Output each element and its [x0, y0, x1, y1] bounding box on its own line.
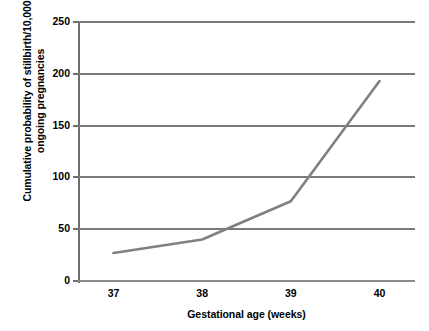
y-tick-label-150: 150 — [26, 120, 70, 131]
chart-figure: Cumulative probability of stillbirth/10,… — [0, 0, 429, 331]
x-tick-label-38: 38 — [182, 287, 222, 299]
y-tick-label-100: 100 — [26, 171, 70, 182]
y-tick-mark-200 — [73, 73, 78, 75]
y-tick-mark-50 — [73, 228, 78, 230]
y-tick-label-200: 200 — [26, 68, 70, 79]
x-axis-title: Gestational age (weeks) — [78, 308, 415, 320]
y-tick-label-50: 50 — [26, 223, 70, 234]
y-axis-ticks: 050100150200250 — [0, 0, 70, 331]
y-tick-mark-150 — [73, 125, 78, 127]
y-tick-label-0: 0 — [26, 275, 70, 286]
x-tick-label-39: 39 — [271, 287, 311, 299]
y-tick-mark-0 — [73, 280, 78, 282]
x-tick-label-40: 40 — [360, 287, 400, 299]
y-tick-mark-100 — [73, 176, 78, 178]
x-tick-label-37: 37 — [93, 287, 133, 299]
data-series-line — [78, 22, 415, 281]
y-tick-mark-250 — [73, 21, 78, 23]
y-tick-label-250: 250 — [26, 16, 70, 27]
series-polyline — [113, 81, 379, 253]
